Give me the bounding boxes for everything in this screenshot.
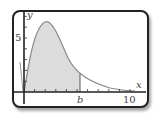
- x-tick-label-10: 10: [123, 94, 136, 105]
- y-axis-label: y: [27, 9, 33, 20]
- left-curve-segment: [20, 62, 23, 91]
- x-axis-label: x: [136, 79, 142, 90]
- x-tick-label-b: b: [77, 94, 83, 105]
- shaded-area: [24, 22, 80, 92]
- y-tick-label-5: 5: [15, 32, 21, 43]
